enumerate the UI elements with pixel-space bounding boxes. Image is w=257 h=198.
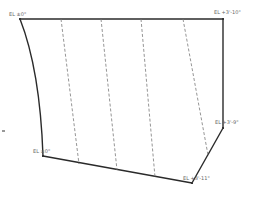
outline	[20, 19, 223, 183]
corner-marker	[42, 155, 44, 157]
corner-markers	[19, 18, 224, 184]
corner-marker	[222, 127, 224, 129]
elevation-diagram: EL ±0" EL +3'-10" EL ±0" EL +3'-9" EL +3…	[0, 0, 257, 198]
dashed-line	[61, 19, 79, 164]
label-top-left: EL ±0"	[9, 11, 26, 17]
dashed-lines	[61, 19, 208, 177]
dashed-line	[101, 19, 117, 170]
label-bottom-left: EL ±0"	[33, 148, 50, 154]
label-right-mid: EL +3'-9"	[215, 119, 239, 125]
bottom-edge	[43, 156, 192, 183]
dashed-line	[183, 19, 208, 155]
label-top-right: EL +3'-10"	[214, 9, 241, 15]
corner-marker	[222, 18, 224, 20]
dashed-line	[141, 19, 155, 177]
left-edge	[20, 19, 43, 156]
corner-marker	[19, 18, 21, 20]
corner-marker	[191, 182, 193, 184]
label-bottom-right: EL +3'-11"	[183, 175, 210, 181]
